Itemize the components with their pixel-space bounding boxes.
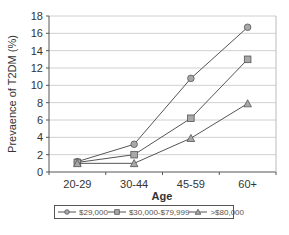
circle-marker-icon [65,210,70,215]
square-legend-icon [108,208,126,216]
circle-marker-icon [244,24,251,31]
y-tick-label: 6 [37,114,43,126]
series-circle [74,24,251,165]
square-marker-icon [131,151,138,158]
x-tick-label: 30-44 [120,178,148,190]
legend-label: >$80,000 [210,208,244,217]
triangle-marker-icon [187,134,195,141]
gridlines [49,16,276,155]
y-tick-label: 18 [31,10,43,22]
y-tick-label: 10 [31,79,43,91]
y-tick-label: 2 [37,149,43,161]
x-tick-label: 20-29 [63,178,91,190]
y-tick-label: 8 [37,97,43,109]
triangle-legend-icon [189,208,207,216]
square-marker-icon [188,115,195,122]
x-axis-ticks: 20-2930-4445-5960+ [49,172,276,190]
x-tick-label: 45-59 [177,178,205,190]
y-tick-label: 14 [31,45,43,57]
square-marker-icon [244,56,251,63]
x-tick-label: 60+ [238,178,257,190]
circle-legend-icon [58,208,76,216]
legend-label: $29,000 [79,208,108,217]
triangle-marker-icon [244,100,252,107]
y-axis-title: Prevaence of T2DM (%) [6,35,18,153]
series-line [77,27,247,161]
x-axis-title: Age [152,190,173,202]
data-series [74,24,252,167]
y-axis-ticks: 024681012141618 [31,10,49,178]
series-triangle [74,100,252,167]
legend-item: $29,000 [58,208,108,217]
circle-marker-icon [188,75,195,82]
legend-item: >$80,000 [189,208,244,217]
y-tick-label: 16 [31,27,43,39]
square-marker-icon [115,210,120,215]
circle-marker-icon [131,141,138,148]
legend-item: $30,000-$79,999 [108,208,190,217]
y-tick-label: 0 [37,166,43,178]
y-tick-label: 12 [31,62,43,74]
line-chart: 024681012141618 20-2930-4445-5960+ Preva… [0,0,289,235]
chart-legend: $29,000$30,000-$79,999>$80,000 [54,205,234,219]
legend-label: $30,000-$79,999 [129,208,190,217]
y-tick-label: 4 [37,131,43,143]
